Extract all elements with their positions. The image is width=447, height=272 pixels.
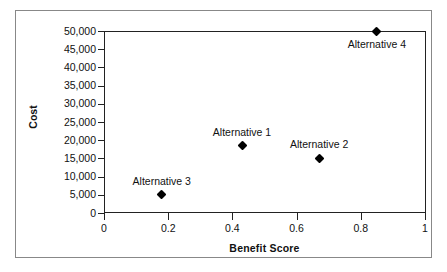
data-point-label: Alternative 1 bbox=[167, 127, 317, 138]
x-axis-tick-label: 1 bbox=[395, 223, 447, 234]
y-axis-title: Cost bbox=[27, 87, 39, 147]
x-axis-tick-label: 0.6 bbox=[267, 223, 327, 234]
data-point-label: Alternative 3 bbox=[87, 176, 237, 187]
x-axis-tick-label: 0.8 bbox=[331, 223, 391, 234]
y-axis-tick bbox=[98, 86, 105, 87]
y-axis-tick bbox=[98, 158, 105, 159]
x-axis-tick bbox=[425, 213, 426, 220]
y-axis-tick-label: 45,000 bbox=[28, 44, 96, 55]
x-axis-tick-label: 0.4 bbox=[202, 223, 262, 234]
data-point-label: Alternative 2 bbox=[244, 139, 394, 150]
x-axis-tick-label: 0 bbox=[74, 223, 134, 234]
y-axis-tick-label: 0 bbox=[28, 208, 96, 219]
y-axis-tick-label: 50,000 bbox=[28, 26, 96, 37]
y-axis-tick-label: 5,000 bbox=[28, 189, 96, 200]
y-axis-tick-label: 40,000 bbox=[28, 62, 96, 73]
data-point-label: Alternative 4 bbox=[302, 39, 447, 50]
chart-figure-frame: 05,00010,00015,00020,00025,00030,00035,0… bbox=[15, 10, 432, 258]
y-axis-tick bbox=[98, 31, 105, 32]
y-axis-tick-label: 15,000 bbox=[28, 153, 96, 164]
x-axis-title: Benefit Score bbox=[104, 242, 425, 254]
x-axis-tick bbox=[104, 213, 105, 220]
y-axis-tick bbox=[98, 67, 105, 68]
y-axis-tick bbox=[98, 140, 105, 141]
x-axis-tick-label: 0.2 bbox=[138, 223, 198, 234]
y-axis-tick bbox=[98, 195, 105, 196]
x-axis-tick bbox=[361, 213, 362, 220]
x-axis-tick bbox=[168, 213, 169, 220]
x-axis-tick bbox=[232, 213, 233, 220]
plot-right-rule bbox=[425, 31, 426, 213]
x-axis-tick bbox=[297, 213, 298, 220]
y-axis-tick bbox=[98, 49, 105, 50]
y-axis-tick bbox=[98, 104, 105, 105]
y-axis-tick bbox=[98, 122, 105, 123]
